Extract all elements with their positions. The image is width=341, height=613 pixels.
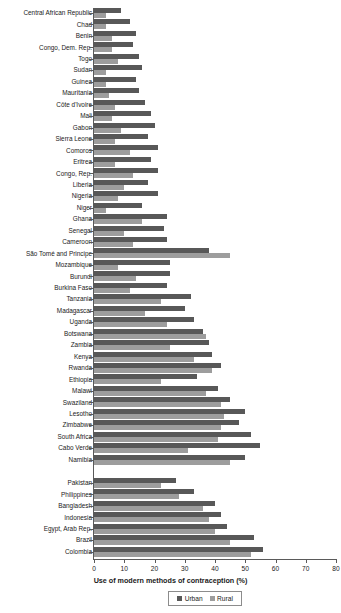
x-tick-label: 70 <box>296 565 316 573</box>
x-tick <box>336 559 337 563</box>
bar-rural <box>94 196 118 201</box>
x-tick <box>185 559 186 563</box>
y-tick <box>89 59 93 60</box>
y-tick <box>89 322 93 323</box>
category-label: Sierra Leone <box>55 135 92 142</box>
y-tick <box>89 47 93 48</box>
bar-rural <box>94 116 112 121</box>
y-tick <box>89 540 93 541</box>
y-tick <box>89 265 93 266</box>
y-tick <box>89 368 93 369</box>
y-tick <box>89 414 93 415</box>
y-tick <box>89 299 93 300</box>
category-label: Congo, Rep. <box>56 170 92 177</box>
y-tick <box>89 379 93 380</box>
bar-rural <box>94 162 115 167</box>
y-tick <box>89 139 93 140</box>
y-tick <box>89 460 93 461</box>
legend-swatch-urban <box>177 596 182 601</box>
x-tick <box>245 559 246 563</box>
bar-rural <box>94 150 130 155</box>
category-label: Egypt, Arab Rep. <box>44 525 92 532</box>
bar-rural <box>94 36 112 41</box>
y-tick <box>89 208 93 209</box>
category-label: Mauritania <box>62 89 92 96</box>
x-tick-label: 60 <box>266 565 286 573</box>
bar-rural <box>94 402 221 407</box>
y-tick <box>89 253 93 254</box>
bar-rural <box>94 24 106 29</box>
x-tick <box>276 559 277 563</box>
bar-rural <box>94 13 106 18</box>
bar-rural <box>94 70 106 75</box>
y-tick <box>89 357 93 358</box>
x-tick-label: 30 <box>175 565 195 573</box>
x-tick-label: 10 <box>114 565 134 573</box>
category-label: Cabo Verde <box>58 444 92 451</box>
y-tick <box>89 128 93 129</box>
x-tick <box>306 559 307 563</box>
x-axis-title: Use of modern methods of contraception (… <box>0 576 341 585</box>
bar-rural <box>94 59 118 64</box>
category-label: Central African Republic <box>23 9 92 16</box>
plot-area <box>94 8 336 559</box>
bar-rural <box>94 391 206 396</box>
bar-rural <box>94 414 224 419</box>
category-label: Burkina Faso <box>54 284 92 291</box>
bar-rural <box>94 517 209 522</box>
y-tick <box>89 242 93 243</box>
bar-rural <box>94 345 170 350</box>
y-tick <box>89 425 93 426</box>
contraception-bar-chart: Central African RepublicChadBeninCongo, … <box>0 0 341 613</box>
x-tick-label: 0 <box>84 565 104 573</box>
category-label: São Tomé and Principe <box>26 250 92 257</box>
bar-rural <box>94 552 251 557</box>
bar-rural <box>94 185 124 190</box>
bar-rural <box>94 425 221 430</box>
bar-rural <box>94 288 130 293</box>
legend-label-rural: Rural <box>217 595 233 602</box>
bar-rural <box>94 105 115 110</box>
bar-rural <box>94 540 230 545</box>
bar-rural <box>94 128 121 133</box>
bar-rural <box>94 483 161 488</box>
y-tick <box>89 162 93 163</box>
x-tick <box>155 559 156 563</box>
y-tick <box>89 196 93 197</box>
bar-rural <box>94 368 212 373</box>
category-label: Mozambique <box>55 261 92 268</box>
y-tick <box>89 448 93 449</box>
x-tick-label: 50 <box>235 565 255 573</box>
bar-rural <box>94 322 167 327</box>
y-tick <box>89 494 93 495</box>
bar-rural <box>94 265 118 270</box>
y-tick <box>89 311 93 312</box>
category-label: Colombia <box>65 548 92 555</box>
bar-rural <box>94 253 230 258</box>
category-label: Cameroon <box>62 238 92 245</box>
bar-rural <box>94 357 194 362</box>
bar-rural <box>94 47 112 52</box>
y-tick <box>89 529 93 530</box>
y-tick <box>89 231 93 232</box>
category-label: Botswana <box>64 330 92 337</box>
y-tick <box>89 506 93 507</box>
bar-rural <box>94 139 115 144</box>
category-label: Madagascar <box>57 307 92 314</box>
x-tick-label: 80 <box>326 565 341 573</box>
y-tick <box>89 116 93 117</box>
x-tick-label: 40 <box>205 565 225 573</box>
bar-rural <box>94 334 206 339</box>
y-tick <box>89 70 93 71</box>
bar-rural <box>94 242 133 247</box>
bar-rural <box>94 494 179 499</box>
bar-rural <box>94 219 142 224</box>
bar-rural <box>94 437 218 442</box>
y-tick <box>89 334 93 335</box>
y-tick <box>89 345 93 346</box>
y-tick <box>89 93 93 94</box>
bar-rural <box>94 173 133 178</box>
x-tick <box>94 559 95 563</box>
category-label: Indonesia <box>64 514 92 521</box>
category-label: Bangladesh <box>58 502 92 509</box>
